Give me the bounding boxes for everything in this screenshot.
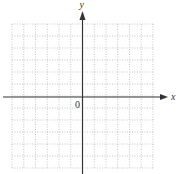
x-axis-arrow-icon [160, 94, 168, 100]
coordinate-plane: x y 0 [0, 0, 178, 174]
origin-label: 0 [75, 99, 80, 110]
y-axis-label: y [79, 0, 85, 10]
y-axis-arrow-icon [80, 11, 86, 20]
x-axis-label: x [170, 91, 176, 102]
